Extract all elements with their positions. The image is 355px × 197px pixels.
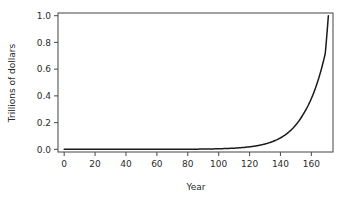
x-tick-label: 20: [89, 159, 101, 169]
x-tick-label: 100: [210, 159, 227, 169]
y-tick-label: 0.2: [37, 118, 51, 128]
chart-figure: 0.00.20.40.60.81.0 020406080100120140160…: [0, 0, 355, 197]
y-tick-label: 0.4: [37, 91, 52, 101]
y-tick-label: 0.6: [37, 64, 52, 74]
exponential-growth-chart: 0.00.20.40.60.81.0 020406080100120140160…: [0, 0, 355, 197]
x-tick-label: 120: [241, 159, 258, 169]
y-tick-label: 0.8: [37, 38, 52, 48]
x-tick-label: 40: [120, 159, 132, 169]
x-tick-label: 140: [272, 159, 289, 169]
y-axis-title: Trillions of dollars: [7, 44, 17, 124]
x-tick-label: 0: [61, 159, 67, 169]
chart-background: [0, 0, 355, 197]
y-tick-label: 0.0: [37, 145, 52, 155]
y-tick-label: 1.0: [37, 11, 52, 21]
x-tick-label: 80: [182, 159, 194, 169]
x-tick-label: 60: [151, 159, 163, 169]
x-axis-title: Year: [185, 182, 205, 192]
x-tick-label: 160: [303, 159, 320, 169]
